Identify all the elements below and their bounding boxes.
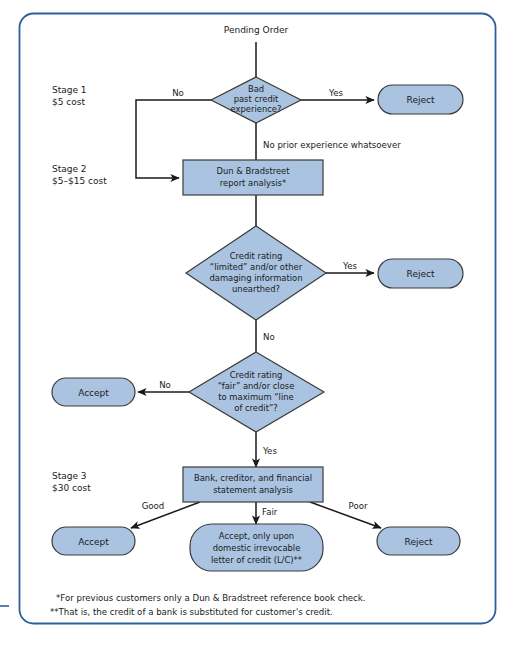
- footnote-2: **That is, the credit of a bank is subst…: [50, 607, 333, 617]
- node-label-line: Reject: [407, 269, 435, 279]
- stage-2-name: Stage 2: [52, 164, 87, 174]
- node-label-line: Reject: [407, 95, 435, 105]
- node-accept-fair-lc[interactable]: Accept, only upon domestic irrevocable l…: [190, 524, 323, 571]
- stage-1-name: Stage 1: [52, 85, 87, 95]
- edge-label-no-fair-rating: No: [159, 380, 171, 390]
- node-label-line: Reject: [405, 537, 433, 547]
- node-reject-stage1[interactable]: Reject: [378, 85, 463, 114]
- edge-label-good: Good: [142, 501, 165, 511]
- edge-label-yes-fair-rating: Yes: [262, 446, 277, 456]
- node-label-line: Bank, creditor, and financial: [194, 473, 312, 483]
- edge-label-yes-limited-rating: Yes: [342, 261, 357, 271]
- footnote-1: *For previous customers only a Dun & Bra…: [56, 593, 366, 603]
- node-label-line: unearthed?: [232, 284, 280, 294]
- node-process-dnb[interactable]: Dun & Bradstreet report analysis*: [183, 160, 323, 195]
- node-accept-stage2[interactable]: Accept: [52, 378, 135, 406]
- node-label-line: Accept: [78, 388, 109, 398]
- node-label-line: statement analysis: [213, 485, 293, 495]
- node-label-line: Credit rating: [230, 370, 283, 380]
- edge-label-no-limited-rating: No: [263, 332, 275, 342]
- node-label-line: of credit”?: [234, 403, 277, 413]
- flowchart-canvas: Pending Order Stage 1 $5 cost Stage 2 $5…: [0, 0, 515, 650]
- flowchart-figure: Pending Order Stage 1 $5 cost Stage 2 $5…: [0, 0, 515, 650]
- edge-label-fair: Fair: [262, 507, 278, 517]
- stage-2-cost: $5–$15 cost: [52, 176, 107, 186]
- node-label-line: Accept: [78, 537, 109, 547]
- node-label-line: to maximum “line: [218, 392, 293, 402]
- node-reject-poor[interactable]: Reject: [377, 527, 460, 555]
- edge-label-no-bad-credit: No: [172, 88, 184, 98]
- edge-label-no-prior-experience: No prior experience whatsoever: [263, 140, 401, 150]
- node-label-line: Credit rating: [230, 251, 283, 261]
- edge-label-poor: Poor: [349, 501, 368, 511]
- stage-1-cost: $5 cost: [52, 97, 85, 107]
- node-label-line: Dun & Bradstreet: [216, 166, 290, 176]
- node-label-line: Accept, only upon: [219, 531, 294, 541]
- node-label-line: domestic irrevocable: [213, 543, 301, 553]
- node-process-bank-analysis[interactable]: Bank, creditor, and financial statement …: [183, 467, 323, 502]
- node-label-line: Bad: [248, 84, 264, 94]
- edge-label-yes-bad-credit: Yes: [328, 88, 343, 98]
- stage-3-cost: $30 cost: [52, 483, 91, 493]
- node-label-line: past credit: [234, 94, 279, 104]
- node-label-line: damaging information: [209, 273, 302, 283]
- stage-3-name: Stage 3: [52, 471, 87, 481]
- node-label-line: “limited” and/or other: [210, 262, 303, 272]
- node-label-line: letter of credit (L/C)**: [211, 555, 302, 565]
- node-accept-good[interactable]: Accept: [52, 527, 135, 555]
- node-reject-stage2[interactable]: Reject: [378, 259, 463, 288]
- node-label-line: “fair” and/or close: [218, 381, 295, 391]
- node-label-line: experience?: [231, 104, 282, 114]
- start-label: Pending Order: [224, 25, 289, 35]
- node-label-line: report analysis*: [220, 178, 286, 188]
